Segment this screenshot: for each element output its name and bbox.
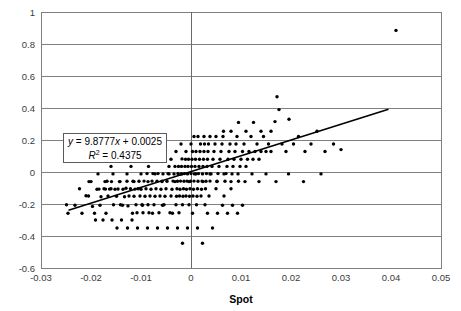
x-tick-label: -0.03 [30, 272, 52, 283]
y-tick-label: 1 [30, 7, 35, 18]
x-tick-label: 0.05 [432, 272, 451, 283]
x-tick-label: 0.04 [382, 272, 401, 283]
y-tick-label: 0.4 [22, 103, 35, 114]
x-axis-tick-labels: -0.03-0.02-0.0100.010.020.030.040.05 [30, 272, 450, 283]
y-tick-label: 0 [30, 167, 35, 178]
y-tick-label: -0.4 [19, 231, 35, 242]
y-tick-label: -0.6 [19, 263, 35, 274]
y-axis-tick-labels: -0.6-0.4-0.200.20.40.60.81 [19, 7, 35, 274]
r-squared-line: R2 = 0.4375 [64, 149, 166, 163]
y-tick-label: 0.6 [22, 71, 35, 82]
equation-line: y = 9.8777x + 0.0025 [64, 136, 166, 149]
x-tick-label: -0.02 [80, 272, 102, 283]
x-tick-label: 0.03 [332, 272, 351, 283]
x-tick-label: 0 [188, 272, 193, 283]
x-tick-label: 0.02 [282, 272, 301, 283]
x-tick-label: -0.01 [130, 272, 152, 283]
y-tick-label: -0.2 [19, 199, 35, 210]
y-tick-label: 0.8 [22, 39, 35, 50]
trendline-equation-box: y = 9.8777x + 0.0025 R2 = 0.4375 [63, 133, 167, 163]
x-tick-label: 0.01 [232, 272, 251, 283]
x-axis-title: Spot [229, 293, 253, 305]
scatter-chart: -0.03-0.02-0.0100.010.020.030.040.05 -0.… [0, 0, 461, 311]
y-tick-label: 0.2 [22, 135, 35, 146]
